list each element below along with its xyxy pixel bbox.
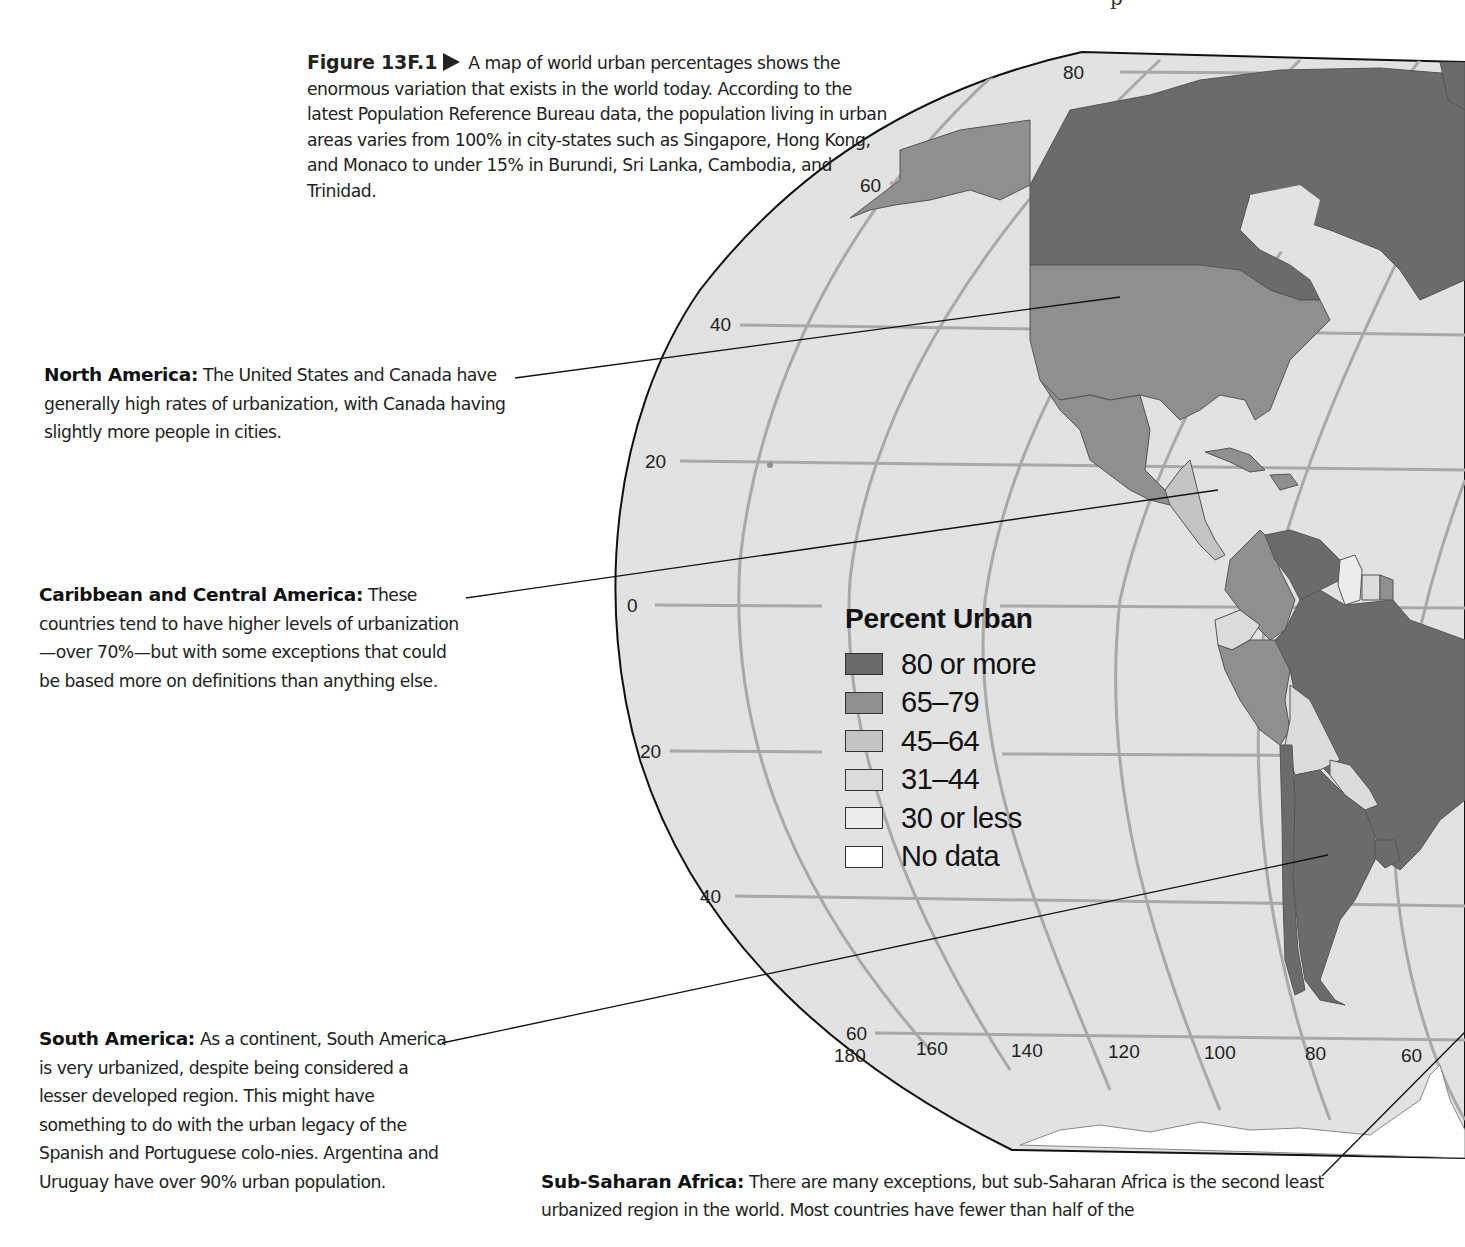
legend-label: No data (901, 840, 999, 873)
legend-item: 65–79 (845, 684, 1036, 723)
svg-text:20: 20 (645, 451, 666, 472)
svg-text:160: 160 (916, 1038, 948, 1059)
note-text: As a continent, South America is very ur… (39, 1029, 446, 1192)
note-title: Caribbean and Central America: (39, 584, 363, 605)
suriname (1362, 575, 1380, 600)
svg-text:140: 140 (1011, 1040, 1043, 1061)
note-sub-saharan-africa: Sub-Saharan Africa: There are many excep… (541, 1168, 1341, 1224)
note-caribbean-central-america: Caribbean and Central America: These cou… (39, 581, 459, 695)
figure-caption-text: A map of world urban percentages shows t… (307, 53, 887, 201)
legend-title: Percent Urban (845, 603, 1036, 635)
legend-label: 30 or less (901, 802, 1022, 835)
note-title: North America: (44, 364, 198, 385)
french-guiana (1380, 575, 1393, 600)
note-south-america: South America: As a continent, South Ame… (39, 1025, 459, 1197)
legend-item: No data (845, 838, 1036, 877)
note-title: Sub-Saharan Africa: (541, 1171, 744, 1192)
svg-text:60: 60 (846, 1023, 867, 1044)
legend-item: 45–64 (845, 722, 1036, 761)
legend-label: 31–44 (901, 763, 979, 796)
map-legend: Percent Urban 80 or more 65–79 45–64 31–… (845, 603, 1036, 876)
legend-label: 45–64 (901, 725, 979, 758)
legend-item: 80 or more (845, 645, 1036, 684)
legend-swatch (845, 653, 883, 675)
note-title: South America: (39, 1028, 195, 1049)
svg-text:0: 0 (627, 595, 638, 616)
legend-label: 80 or more (901, 648, 1036, 681)
svg-text:40: 40 (710, 314, 731, 335)
svg-text:60: 60 (1401, 1045, 1422, 1066)
svg-text:20: 20 (640, 741, 661, 762)
legend-swatch (845, 846, 883, 868)
svg-text:100: 100 (1204, 1042, 1236, 1063)
legend-item: 31–44 (845, 761, 1036, 800)
legend-swatch (845, 769, 883, 791)
legend-swatch (845, 692, 883, 714)
legend-swatch (845, 807, 883, 829)
svg-text:80: 80 (1063, 62, 1084, 83)
note-north-america: North America: The United States and Can… (44, 361, 514, 447)
legend-label: 65–79 (901, 686, 979, 719)
svg-text:80: 80 (1305, 1043, 1326, 1064)
legend-swatch (845, 730, 883, 752)
svg-text:40: 40 (700, 886, 721, 907)
legend-item: 30 or less (845, 799, 1036, 838)
figure-caption: Figure 13F.1A map of world urban percent… (307, 50, 887, 205)
triangle-pointer-icon (443, 53, 460, 71)
svg-text:180: 180 (834, 1045, 866, 1066)
figure-label: Figure 13F.1 (307, 51, 437, 73)
svg-text:120: 120 (1108, 1041, 1140, 1062)
